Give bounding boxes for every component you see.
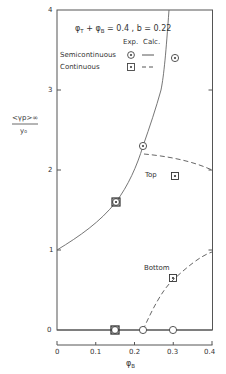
annotation-equation: φT + φB = 0.4 , b = 0.22 — [75, 24, 171, 36]
ytick-3: 3 — [48, 86, 52, 95]
xtick-0: 0 — [55, 348, 59, 357]
eq-plus: + — [84, 24, 96, 33]
xlabel-sub: B — [131, 363, 135, 369]
continuous-calc-top-curve — [144, 154, 212, 170]
ytick-4: 4 — [48, 6, 52, 15]
ylabel-denominator: y₀ — [20, 127, 27, 136]
xlabel: φB — [126, 359, 135, 371]
label-bottom: Bottom — [144, 264, 170, 273]
xtick-4: 0.4 — [204, 348, 215, 357]
legend-markers — [128, 52, 155, 71]
eq-rest: = 0.4 , b = 0.22 — [105, 24, 172, 33]
legend-label-semicontinuous: Semicontinuous — [60, 51, 116, 60]
ylabel-numerator: <γp>∞ — [12, 114, 38, 123]
xtick-1: 0.1 — [90, 348, 101, 357]
ytick-1: 1 — [49, 246, 53, 255]
continuous-exp-points — [111, 173, 179, 335]
xtick-3: 0.3 — [167, 348, 178, 357]
ytick-2: 2 — [48, 166, 52, 175]
ytick-0: 0 — [47, 326, 51, 335]
legend-label-continuous: Continuous — [60, 63, 100, 72]
label-top: Top — [145, 171, 157, 180]
legend-header-exp: Exp. — [123, 38, 138, 47]
legend-header-calc: Calc. — [143, 38, 160, 47]
x-axis — [57, 341, 213, 345]
xtick-2: 0.2 — [129, 348, 140, 357]
